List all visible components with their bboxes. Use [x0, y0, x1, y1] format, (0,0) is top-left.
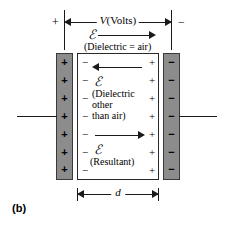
voltage-label: V(Volts)	[97, 14, 139, 26]
field-air-arrow-line	[98, 35, 150, 36]
bound-charge: +	[149, 165, 155, 176]
negative-plate: − − − − − − −	[163, 53, 180, 180]
plate-charge: −	[168, 75, 174, 86]
positive-terminal-sign: +	[52, 16, 59, 28]
field-air-arrowhead-icon	[149, 31, 156, 39]
figure-part-label: (b)	[12, 203, 26, 214]
positive-plate: + + + + + + +	[56, 53, 73, 180]
plate-charge: −	[168, 111, 174, 122]
field-dielectric-caption-line2: other	[92, 99, 113, 110]
negative-plate-charges: − − − − − − −	[164, 54, 179, 179]
bound-charge: +	[149, 75, 155, 86]
bound-charge: +	[149, 129, 155, 140]
dielectric-bound-positive-charges: + + + + + + +	[146, 53, 158, 180]
field-air-caption: (Dielectric = air)	[84, 41, 151, 52]
negative-terminal-sign: −	[178, 16, 185, 28]
capacitor-dielectric-diagram: + − V(Volts) ℰ (Dielectric = air) + + + …	[0, 0, 231, 225]
field-resultant-arrow	[95, 131, 145, 140]
bound-charge: +	[149, 93, 155, 104]
field-air-symbol: ℰ	[88, 28, 96, 41]
plate-charge: +	[61, 111, 67, 122]
voltage-label-symbol: V	[100, 14, 107, 26]
bound-charge: −	[82, 111, 88, 122]
bound-charge: −	[82, 75, 88, 86]
field-resultant-arrow-line	[95, 135, 139, 136]
voltage-arrowhead-left-icon	[64, 18, 71, 26]
right-lead-wire	[179, 116, 217, 117]
field-dielectric-caption-line1: (Dielectric	[92, 88, 135, 99]
plate-charge: +	[61, 129, 67, 140]
plate-charge: +	[61, 164, 67, 175]
voltage-arrowhead-right-icon	[165, 18, 172, 26]
plate-charge: −	[168, 129, 174, 140]
plate-charge: −	[168, 93, 174, 104]
field-resultant-arrowhead-icon	[138, 131, 145, 139]
field-resultant-symbol: ℰ	[94, 143, 102, 156]
gap-arrowhead-right-icon	[152, 190, 159, 198]
field-dielectric-arrow-line	[98, 67, 142, 68]
bound-charge: −	[82, 147, 88, 158]
field-resultant-caption: (Resultant)	[90, 156, 134, 167]
field-dielectric-caption-line3: than air)	[92, 110, 126, 121]
field-air-arrow	[98, 31, 156, 40]
bound-charge: −	[82, 129, 88, 140]
bound-charge: +	[149, 57, 155, 68]
plate-charge: −	[168, 147, 174, 158]
field-dielectric-symbol: ℰ	[94, 75, 102, 88]
left-lead-wire	[17, 116, 57, 117]
gap-dimension-label: d	[111, 186, 125, 198]
voltage-label-units: (Volts)	[106, 14, 136, 26]
plate-charge: −	[168, 164, 174, 175]
gap-dimension-arrow: d	[77, 188, 159, 202]
bound-charge: −	[82, 57, 88, 68]
bound-charge: +	[149, 147, 155, 158]
plate-charge: +	[61, 75, 67, 86]
bound-charge: +	[149, 111, 155, 122]
field-dielectric-arrow	[92, 63, 142, 72]
positive-plate-charges: + + + + + + +	[57, 54, 72, 179]
plate-charge: −	[168, 57, 174, 68]
bound-charge: −	[82, 93, 88, 104]
plate-charge: +	[61, 147, 67, 158]
voltage-dimension-arrow: V(Volts)	[64, 16, 172, 30]
plate-charge: +	[61, 93, 67, 104]
field-dielectric-arrowhead-icon	[92, 63, 99, 71]
bound-charge: −	[82, 165, 88, 176]
gap-arrowhead-left-icon	[77, 190, 84, 198]
plate-charge: +	[61, 57, 67, 68]
